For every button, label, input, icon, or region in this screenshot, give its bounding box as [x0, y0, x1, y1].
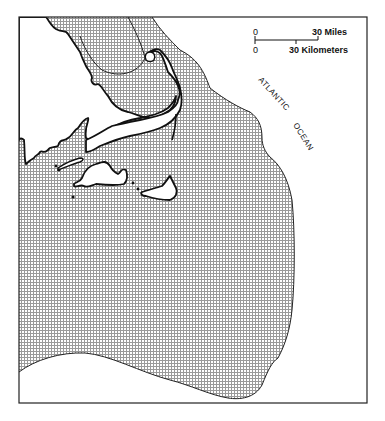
scale-miles-label: 30 Miles: [312, 27, 347, 37]
islet: [137, 188, 140, 191]
scale-miles-zero: 0: [253, 27, 258, 37]
islet: [71, 195, 74, 198]
scale-km-label: 30 Kilometers: [289, 45, 348, 55]
cape-cod-hook: [145, 52, 155, 62]
ocean-label-ocean: OCEAN: [291, 121, 315, 152]
ocean-label-atlantic: ATLANTIC: [257, 75, 292, 112]
map-figure: 0 30 Miles 0 30 Kilometers ATLANTIC OCEA…: [0, 0, 385, 421]
scale-bar: 0 30 Miles 0 30 Kilometers: [253, 27, 348, 55]
scale-km-zero: 0: [253, 45, 258, 55]
islet: [132, 182, 135, 185]
